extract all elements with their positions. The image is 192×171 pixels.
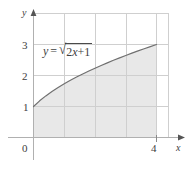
radical-sign-icon: √ (59, 41, 66, 61)
equation-lhs: y (43, 44, 48, 59)
y-tick-label-2: 2 (22, 71, 28, 82)
curve-equation-label: y = √ 2x+1 (43, 43, 92, 60)
equation-equals-sign: = (50, 44, 57, 59)
y-axis-arrowhead (31, 9, 37, 16)
plot-canvas (0, 0, 192, 171)
x-tick-label-4: 4 (151, 143, 157, 154)
y-tick-label-3: 3 (22, 40, 28, 51)
y-tick-label-1: 1 (23, 102, 29, 113)
radicand: 2x+1 (65, 43, 92, 60)
math-graph-figure: y x 3 2 1 0 4 y = √ 2x+1 (0, 0, 192, 171)
origin-label: 0 (22, 143, 28, 154)
radical-expression: √ 2x+1 (59, 43, 92, 60)
radicand-constant: 1 (84, 45, 90, 59)
y-axis-label: y (22, 8, 26, 18)
x-axis-label: x (176, 143, 180, 153)
x-axis-arrowhead (178, 135, 185, 141)
